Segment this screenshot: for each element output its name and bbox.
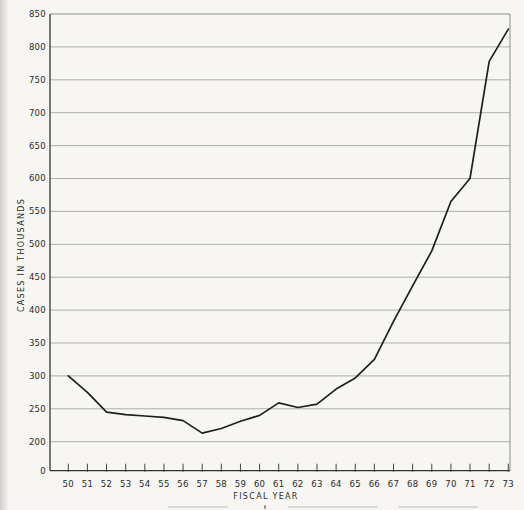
y-tick-label: 250 [29,404,46,414]
y-tick-label: 800 [29,42,46,52]
y-tick-label: 400 [29,305,46,315]
y-tick-label: 200 [29,437,46,447]
y-tick-label: 600 [29,173,46,183]
x-tick-label: 65 [350,479,361,489]
x-tick-label: 64 [330,479,341,489]
x-tick-label: 56 [177,479,188,489]
y-tick-label: 650 [29,141,46,151]
x-tick-label: 62 [292,479,303,489]
x-tick-label: 63 [311,479,322,489]
y-tick-label: 300 [29,371,46,381]
x-tick-label: 72 [483,479,494,489]
data-line [68,29,508,433]
x-tick-label: 67 [388,479,399,489]
x-tick-label: 68 [407,479,418,489]
y-tick-label: 850 [29,9,46,19]
x-tick-label: 69 [426,479,437,489]
y-tick-label: 0 [40,466,46,476]
y-axis-title: CASES IN THOUSANDS [17,198,26,312]
gridlines [50,47,510,442]
x-tick-label: 60 [254,479,265,489]
x-tick-label: 57 [196,479,207,489]
x-tick-label: 50 [63,479,74,489]
x-tick-label: 70 [445,479,456,489]
x-tick-label: 54 [139,479,150,489]
y-tick-label: 750 [29,75,46,85]
y-axis-tick-labels: 0200250300350400450500550600650700750800… [29,9,46,476]
x-tick-label: 58 [216,479,227,489]
x-tick-label: 52 [101,479,112,489]
y-tick-label: 450 [29,272,46,282]
y-tick-label: 500 [29,239,46,249]
x-tick-label: 59 [235,479,246,489]
x-tick-label: 55 [158,479,169,489]
plot-border [50,14,510,471]
x-tick-label: 53 [120,479,131,489]
x-tick-label: 51 [82,479,93,489]
y-tick-label: 700 [29,108,46,118]
x-axis-tick-labels: 5051525354555657585960616263646566676869… [63,479,514,489]
y-tick-label: 550 [29,206,46,216]
y-tick-label: 350 [29,338,46,348]
line-chart: 0200250300350400450500550600650700750800… [0,0,524,510]
figure: 0200250300350400450500550600650700750800… [0,0,524,510]
x-tick-label: 71 [464,479,475,489]
x-axis-title: FISCAL YEAR [233,492,298,501]
x-tick-label: 61 [273,479,284,489]
x-tick-label: 66 [369,479,380,489]
x-tick-label: 73 [503,479,514,489]
